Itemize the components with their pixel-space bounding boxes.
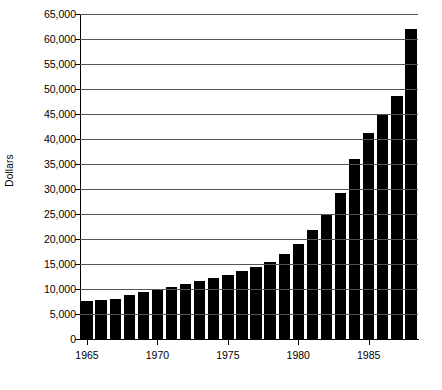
gridline bbox=[80, 289, 418, 290]
x-axis-tick-label: 1980 bbox=[287, 349, 310, 361]
bars-layer bbox=[80, 14, 418, 339]
y-axis-tick-labels: 05,00010,00015,00020,00025,00030,00035,0… bbox=[18, 0, 76, 390]
gridline bbox=[80, 114, 418, 115]
y-axis-tick-label: 15,000 bbox=[22, 258, 76, 270]
bar bbox=[391, 96, 402, 340]
y-axis-tick-label: 35,000 bbox=[22, 158, 76, 170]
y-axis-tick-label: 45,000 bbox=[22, 108, 76, 120]
y-axis-tick-label: 20,000 bbox=[22, 233, 76, 245]
gridline bbox=[80, 239, 418, 240]
bar bbox=[124, 295, 135, 340]
x-axis-tick-mark bbox=[157, 340, 158, 345]
bar bbox=[307, 230, 318, 339]
y-axis-tick-mark bbox=[75, 339, 80, 340]
bar bbox=[349, 159, 360, 340]
bar bbox=[293, 244, 304, 339]
bar bbox=[377, 114, 388, 339]
bar bbox=[81, 301, 92, 339]
bar bbox=[166, 287, 177, 339]
bar bbox=[250, 267, 261, 339]
y-axis-tick-mark bbox=[75, 264, 80, 265]
y-axis-tick-label: 25,000 bbox=[22, 208, 76, 220]
bar-chart: Dollars 05,00010,00015,00020,00025,00030… bbox=[0, 0, 442, 390]
y-axis-tick-mark bbox=[75, 164, 80, 165]
gridline bbox=[80, 264, 418, 265]
x-axis-tick-mark bbox=[87, 340, 88, 345]
gridline bbox=[80, 214, 418, 215]
y-axis-tick-mark bbox=[75, 289, 80, 290]
y-axis-tick-label: 55,000 bbox=[22, 58, 76, 70]
gridline bbox=[80, 89, 418, 90]
bar bbox=[222, 275, 233, 339]
bar bbox=[321, 215, 332, 339]
y-axis-tick-label: 60,000 bbox=[22, 33, 76, 45]
x-axis-tick-label: 1975 bbox=[216, 349, 239, 361]
gridline bbox=[80, 64, 418, 65]
y-axis-title-label: Dollars bbox=[4, 154, 15, 187]
y-axis-tick-mark bbox=[75, 239, 80, 240]
y-axis-tick-label: 65,000 bbox=[22, 8, 76, 20]
bar bbox=[208, 278, 219, 339]
y-axis-tick-mark bbox=[75, 189, 80, 190]
gridline bbox=[80, 314, 418, 315]
gridline bbox=[80, 189, 418, 190]
y-axis-tick-mark bbox=[75, 89, 80, 90]
y-axis-tick-mark bbox=[75, 39, 80, 40]
gridline bbox=[80, 139, 418, 140]
y-axis-tick-mark bbox=[75, 64, 80, 65]
gridline bbox=[80, 14, 418, 15]
y-axis-tick-label: 0 bbox=[22, 333, 76, 345]
x-axis-tick-label: 1970 bbox=[146, 349, 169, 361]
x-axis-tick-mark bbox=[369, 340, 370, 345]
bar bbox=[180, 284, 191, 339]
y-axis-tick-mark bbox=[75, 139, 80, 140]
x-axis-tick-mark bbox=[298, 340, 299, 345]
bar bbox=[279, 254, 290, 339]
bar bbox=[264, 262, 275, 339]
y-axis-title: Dollars bbox=[0, 0, 18, 340]
y-axis-tick-mark bbox=[75, 314, 80, 315]
bar bbox=[110, 299, 121, 340]
bar bbox=[236, 271, 247, 339]
y-axis-tick-label: 40,000 bbox=[22, 133, 76, 145]
y-axis-tick-label: 50,000 bbox=[22, 83, 76, 95]
bar bbox=[138, 292, 149, 339]
y-axis-tick-mark bbox=[75, 214, 80, 215]
y-axis-tick-label: 30,000 bbox=[22, 183, 76, 195]
y-axis-tick-mark bbox=[75, 14, 80, 15]
bar bbox=[405, 29, 416, 339]
y-axis-tick-label: 5,000 bbox=[22, 308, 76, 320]
x-axis-tick-label: 1985 bbox=[357, 349, 380, 361]
x-axis-tick-mark bbox=[228, 340, 229, 345]
x-axis-tick-label: 1965 bbox=[75, 349, 98, 361]
bar bbox=[95, 300, 106, 339]
gridline bbox=[80, 39, 418, 40]
y-axis-tick-mark bbox=[75, 114, 80, 115]
y-axis-tick-label: 10,000 bbox=[22, 283, 76, 295]
gridline bbox=[80, 164, 418, 165]
